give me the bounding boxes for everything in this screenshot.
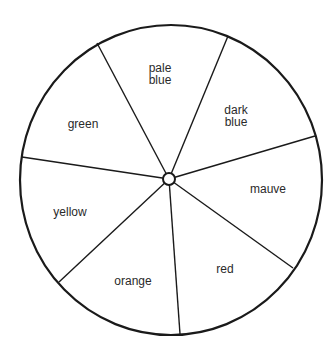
segment-label-pale-blue: pale blue — [149, 62, 172, 86]
segment-label-mauve: mauve — [250, 183, 286, 195]
hub-icon — [163, 173, 175, 185]
segment-label-green: green — [68, 118, 99, 130]
segment-label-yellow: yellow — [53, 206, 86, 218]
segment-label-orange: orange — [114, 275, 151, 287]
spoke-line — [169, 36, 228, 179]
spoke-line — [169, 179, 180, 334]
spoke-line — [22, 157, 169, 179]
spoke-line — [169, 136, 315, 179]
segment-label-red: red — [216, 263, 233, 275]
spoke-line — [59, 179, 169, 282]
segment-label-dark-blue: dark blue — [224, 104, 247, 128]
colour-wheel — [0, 0, 335, 350]
